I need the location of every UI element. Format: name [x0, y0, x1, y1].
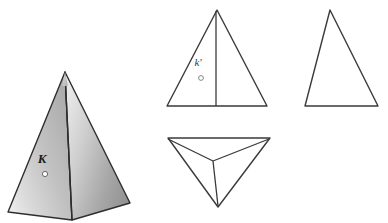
bottom-view-outline: [168, 138, 270, 207]
side-view-triangle: [305, 10, 378, 106]
pyramid-projection-figure: K k': [0, 0, 388, 223]
pyramid-point-marker-k: [42, 171, 47, 176]
pyramid-point-label-k: K: [37, 151, 48, 166]
bottom-view-triangle: [168, 138, 270, 207]
side-view-outline: [305, 10, 378, 106]
figure-container: K k': [0, 0, 388, 223]
pyramid-left-face: [8, 72, 72, 220]
front-view-point-label-kprime: k': [194, 56, 202, 68]
front-view-point-marker-kprime: [199, 76, 204, 81]
front-view-outline: [167, 10, 267, 106]
pyramid-right-face: [65, 72, 130, 220]
front-view-triangle: k': [167, 10, 267, 106]
shaded-pyramid-pictorial-view: K: [8, 72, 130, 220]
